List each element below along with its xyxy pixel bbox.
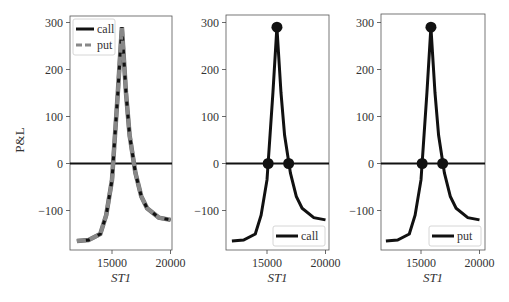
marker-point: [271, 22, 282, 33]
x-tick-label: 15000: [406, 256, 436, 270]
legend: callput: [73, 19, 115, 55]
x-tick-label: 20000: [156, 256, 186, 270]
y-tick-label: −100: [194, 204, 219, 218]
y-tick-label: 200: [45, 63, 63, 77]
y-tick-label: 200: [356, 63, 374, 77]
y-tick-label: 300: [45, 16, 63, 30]
middle-panel: 3002001000−1001500020000ST1call: [194, 15, 340, 285]
marker-point: [263, 158, 274, 169]
right-panel: 3002001000−1001500020000ST1put: [349, 14, 494, 285]
marker-point: [283, 158, 294, 169]
y-tick-label: 0: [368, 157, 374, 171]
y-tick-label: −100: [349, 204, 374, 218]
x-axis-label: ST1: [111, 270, 131, 285]
legend: put: [429, 226, 481, 246]
x-tick-label: 20000: [311, 256, 341, 270]
x-tick-label: 15000: [252, 256, 282, 270]
y-tick-label: 100: [201, 110, 219, 124]
left-panel: 3002001000−1001500020000ST1callput: [38, 16, 185, 286]
y-tick-label: 200: [201, 63, 219, 77]
marker-point: [417, 158, 428, 169]
y-axis-label: P&L: [12, 127, 27, 152]
legend-label-call: call: [301, 229, 319, 243]
legend-label-put: put: [97, 38, 113, 52]
x-axis-label: ST1: [267, 270, 287, 285]
x-tick-label: 20000: [465, 256, 495, 270]
y-tick-label: 100: [45, 110, 63, 124]
y-tick-label: −100: [38, 204, 63, 218]
legend-label-put: put: [457, 229, 473, 243]
y-tick-label: 0: [213, 157, 219, 171]
y-tick-label: 300: [201, 16, 219, 30]
x-tick-label: 15000: [97, 256, 127, 270]
x-axis-label: ST1: [423, 270, 443, 285]
legend: call: [273, 226, 325, 246]
marker-point: [437, 158, 448, 169]
y-tick-label: 100: [356, 110, 374, 124]
y-tick-label: 300: [356, 16, 374, 30]
figure: P&L 3002001000−1001500020000ST1callput 3…: [0, 0, 509, 302]
y-tick-label: 0: [57, 157, 63, 171]
marker-point: [425, 22, 436, 33]
legend-label-call: call: [97, 22, 115, 36]
